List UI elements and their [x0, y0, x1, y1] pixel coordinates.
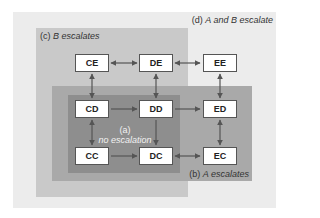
node-dc: DC: [139, 147, 173, 165]
node-ec: EC: [203, 147, 237, 165]
node-cc: CC: [75, 147, 109, 165]
node-ed: ED: [203, 100, 237, 118]
node-ce: CE: [75, 54, 109, 72]
node-de: DE: [139, 54, 173, 72]
node-ee: EE: [203, 54, 237, 72]
node-cd: CD: [75, 100, 109, 118]
node-dd: DD: [139, 100, 173, 118]
